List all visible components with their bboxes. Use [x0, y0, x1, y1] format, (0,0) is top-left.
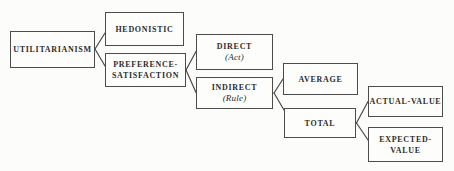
- node-average-label: AVERAGE: [299, 74, 343, 85]
- node-indirect-sublabel: (Rule): [223, 93, 247, 104]
- node-utilitarianism: UTILITARIANISM: [10, 31, 95, 68]
- node-average: AVERAGE: [283, 63, 358, 95]
- node-hedonistic-label: HEDONISTIC: [115, 24, 173, 35]
- node-expected-value: EXPECTED- VALUE: [368, 127, 443, 162]
- node-total-label: TOTAL: [305, 118, 336, 129]
- node-preference-label-line2: SATISFACTION: [112, 70, 179, 81]
- edge-indirect-average: [274, 79, 283, 93]
- node-indirect-label: INDIRECT: [212, 82, 258, 93]
- node-expected-value-label-line2: VALUE: [390, 145, 420, 156]
- edge-preference-indirect: [186, 70, 196, 93]
- node-preference-label-line1: PREFERENCE-: [113, 59, 178, 70]
- node-preference-satisfaction: PREFERENCE- SATISFACTION: [105, 53, 186, 87]
- edge-preference-direct: [186, 52, 196, 71]
- node-indirect: INDIRECT (Rule): [196, 77, 273, 109]
- node-actual-value: ACTUAL-VALUE: [368, 86, 443, 117]
- edge-total-actual-value: [357, 102, 369, 124]
- edge-total-expected-value: [357, 123, 369, 140]
- node-direct-label: DIRECT: [217, 41, 252, 52]
- node-utilitarianism-label: UTILITARIANISM: [13, 44, 92, 55]
- node-direct-sublabel: (Act): [225, 52, 244, 63]
- node-hedonistic: HEDONISTIC: [105, 12, 184, 46]
- edge-utilitarianism-hedonistic: [95, 33, 105, 49]
- node-actual-value-label: ACTUAL-VALUE: [370, 96, 442, 107]
- edge-indirect-total: [274, 93, 284, 110]
- node-expected-value-label-line1: EXPECTED-: [379, 134, 432, 145]
- node-direct: DIRECT (Act): [196, 34, 273, 70]
- diagram-canvas: UTILITARIANISM HEDONISTIC PREFERENCE- SA…: [0, 0, 454, 171]
- node-total: TOTAL: [284, 108, 356, 138]
- edge-utilitarianism-preference: [95, 49, 105, 66]
